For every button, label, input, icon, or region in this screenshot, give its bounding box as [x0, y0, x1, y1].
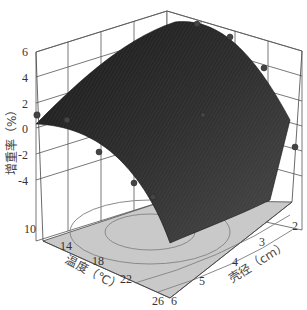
svg-text:26: 26: [152, 294, 164, 308]
svg-text:6: 6: [22, 45, 28, 59]
svg-text:14: 14: [60, 239, 72, 253]
svg-text:-4: -4: [18, 174, 28, 188]
svg-text:0: 0: [22, 122, 28, 136]
svg-text:4: 4: [22, 71, 28, 85]
z-axis-ticks: 6 4 2 0 -2 -4: [18, 45, 28, 188]
svg-text:2: 2: [22, 97, 28, 111]
svg-text:6: 6: [171, 294, 177, 308]
svg-text:-2: -2: [18, 148, 28, 162]
surface-plot: 6 4 2 0 -2 -4 增重率（%） 10 14 18 22 26 温度（℃…: [0, 0, 307, 310]
svg-text:10: 10: [24, 222, 36, 236]
z-axis-label: 增重率（%）: [4, 104, 19, 175]
svg-text:5: 5: [199, 274, 205, 288]
svg-text:2: 2: [292, 219, 298, 233]
svg-text:3: 3: [259, 235, 265, 249]
